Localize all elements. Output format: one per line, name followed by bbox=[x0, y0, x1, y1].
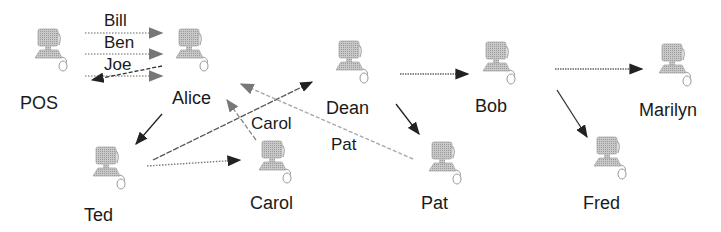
edge-label-bill: Bill bbox=[104, 11, 127, 31]
node-label-pos: POS bbox=[20, 93, 58, 114]
node-pos bbox=[22, 27, 82, 87]
node-label-carol: Carol bbox=[250, 193, 293, 214]
node-label-dean: Dean bbox=[326, 98, 369, 119]
node-label-bob: Bob bbox=[475, 96, 507, 117]
node-dean bbox=[323, 39, 383, 99]
node-alice bbox=[163, 27, 223, 87]
computer-icon bbox=[480, 40, 520, 86]
edge-label-joe: Joe bbox=[104, 55, 131, 75]
edge-bob-fred bbox=[557, 90, 587, 137]
node-label-pat: Pat bbox=[421, 193, 448, 214]
network-diagram: Bill Ben Joe Carol Pat POS Alice bbox=[0, 0, 721, 232]
edge-label-carol: Carol bbox=[251, 114, 292, 134]
computer-icon bbox=[656, 42, 696, 88]
edge-label-pat: Pat bbox=[331, 135, 357, 155]
edge-label-ben: Ben bbox=[104, 33, 134, 53]
computer-icon bbox=[591, 135, 631, 181]
edge-dean-pat bbox=[396, 104, 419, 134]
node-label-marilyn: Marilyn bbox=[639, 100, 697, 121]
computer-icon bbox=[173, 27, 213, 73]
node-label-ted: Ted bbox=[84, 205, 113, 226]
node-label-alice: Alice bbox=[172, 88, 211, 109]
node-ted bbox=[80, 145, 140, 205]
node-fred bbox=[581, 135, 641, 195]
computer-icon bbox=[256, 139, 296, 185]
node-bob bbox=[470, 40, 530, 100]
node-label-fred: Fred bbox=[583, 193, 620, 214]
node-marilyn bbox=[646, 42, 706, 102]
computer-icon bbox=[90, 145, 130, 191]
edge-alice-ted bbox=[136, 114, 162, 144]
edge-ted-carol bbox=[147, 160, 240, 166]
node-carol bbox=[246, 139, 306, 199]
computer-icon bbox=[333, 39, 373, 85]
computer-icon bbox=[426, 140, 466, 186]
computer-icon bbox=[32, 27, 72, 73]
node-pat bbox=[416, 140, 476, 200]
